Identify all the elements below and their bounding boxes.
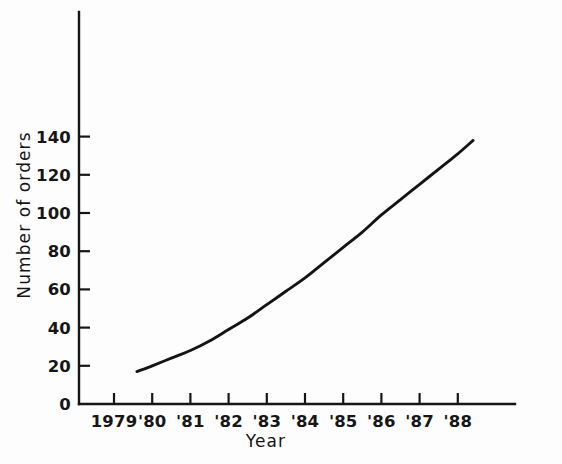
data-series-line [137,140,473,371]
y-tick-group [79,137,90,366]
x-tick-label: '87 [405,412,434,431]
chart-figure: 020406080100120140 1979'80'81'82'83'84'8… [0,0,562,464]
x-tick-label: '84 [291,412,320,431]
x-tick-label: '86 [367,412,396,431]
y-tick-label: 40 [48,319,71,338]
y-axis-title: Number of orders [14,131,34,298]
y-tick-label: 20 [48,357,71,376]
x-tick-label: '85 [329,412,358,431]
y-tick-label: 60 [48,280,71,299]
y-tick-label: 120 [36,166,71,185]
axes [79,12,515,404]
x-tick-label: '88 [443,412,472,431]
x-tick-label: '80 [138,412,167,431]
y-tick-label: 0 [59,395,71,414]
x-tick-label-group: 1979'80'81'82'83'84'85'86'87'88 [91,412,472,431]
y-tick-label: 140 [36,128,71,147]
y-tick-label-group: 020406080100120140 [36,128,71,414]
x-tick-label: '82 [214,412,243,431]
x-tick-label: '83 [252,412,281,431]
y-tick-label: 80 [48,242,71,261]
x-tick-label: '81 [176,412,205,431]
x-tick-label: 1979 [91,412,138,431]
x-tick-group [114,393,458,404]
x-axis-title: Year [245,431,286,451]
line-chart: 020406080100120140 1979'80'81'82'83'84'8… [0,0,562,464]
y-tick-label: 100 [36,204,71,223]
